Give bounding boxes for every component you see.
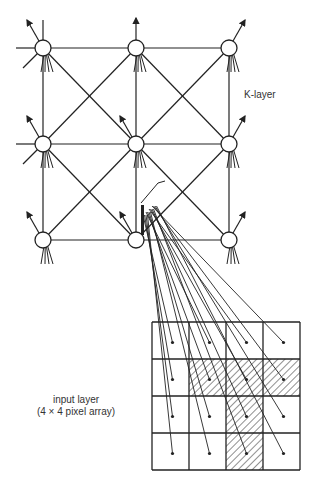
synapse-line: [157, 206, 284, 454]
pixel-dot: [282, 341, 285, 344]
input-layer-grid: [152, 322, 300, 470]
k-node: [35, 40, 51, 56]
pixel-dot: [245, 341, 248, 344]
k-node: [221, 136, 237, 152]
neural-network-diagram: [0, 0, 318, 495]
k-layer: [16, 18, 245, 264]
pixel-dot: [171, 378, 174, 381]
k-node: [221, 232, 237, 248]
input-layer-label-line1: input layer: [26, 394, 126, 406]
pixel-dot: [282, 415, 285, 418]
pixel-dot: [208, 452, 211, 455]
active-pixel: [226, 433, 263, 470]
k-node: [35, 232, 51, 248]
k-node: [221, 40, 237, 56]
k-node: [128, 136, 144, 152]
pixel-dot: [171, 341, 174, 344]
pixel-dot: [245, 452, 248, 455]
pixel-dot: [208, 341, 211, 344]
pixel-dot: [208, 415, 211, 418]
pixel-dot: [282, 452, 285, 455]
pixel-dot: [171, 452, 174, 455]
pixel-dot: [245, 415, 248, 418]
k-node: [128, 40, 144, 56]
k-node: [35, 136, 51, 152]
pixel-dot: [282, 378, 285, 381]
pixel-dot: [171, 415, 174, 418]
k-layer-label: K-layer: [244, 89, 276, 101]
input-layer-label: input layer (4 × 4 pixel array): [26, 394, 126, 418]
input-connections: [141, 181, 285, 455]
input-layer-label-line2: (4 × 4 pixel array): [26, 406, 126, 418]
pixel-dot: [208, 378, 211, 381]
